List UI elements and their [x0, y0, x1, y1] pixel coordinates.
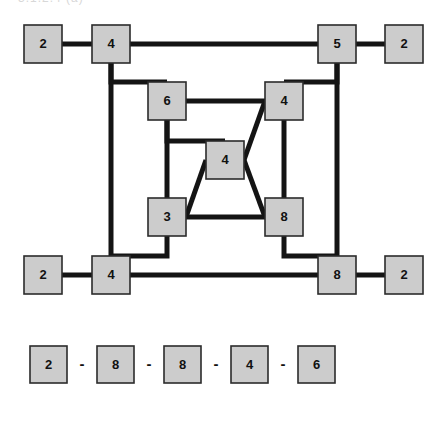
sequence-separator: -: [147, 355, 152, 372]
figure-page: 3.1.2.4 (a) 2452644382482 2-8-8-4-6: [0, 0, 447, 423]
sequence-item[interactable]: 8: [97, 346, 134, 383]
sequence-separator: -: [80, 355, 85, 372]
sequence-separator: -: [281, 355, 286, 372]
sequence-item[interactable]: 8: [164, 346, 201, 383]
sequence-separator: -: [214, 355, 219, 372]
sequence-item-label: 2: [45, 357, 52, 372]
sequence-item-label: 8: [179, 357, 186, 372]
sequence-item[interactable]: 4: [231, 346, 268, 383]
sequence-strip: 2-8-8-4-6: [0, 0, 447, 423]
sequence-item-label: 8: [112, 357, 119, 372]
sequence-item-label: 6: [313, 357, 320, 372]
sequence-item-layer: 2-8-8-4-6: [30, 346, 335, 383]
sequence-item-label: 4: [246, 357, 254, 372]
sequence-item[interactable]: 2: [30, 346, 67, 383]
sequence-item[interactable]: 6: [298, 346, 335, 383]
